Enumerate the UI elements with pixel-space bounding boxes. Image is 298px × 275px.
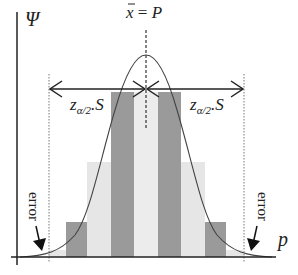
left-interval-z: z (70, 95, 77, 114)
dark-bar (111, 92, 134, 257)
left-interval-sub: α/2 (77, 104, 91, 116)
right-error-arrow (247, 226, 260, 251)
mean-label-p: P (152, 3, 162, 22)
mean-label-xbar: x (126, 3, 134, 22)
dark-bar (205, 222, 226, 257)
light-bar (49, 250, 66, 257)
right-interval-sub: α/2 (197, 104, 211, 116)
y-axis-label: Ψ (25, 8, 39, 31)
diagram-canvas (0, 0, 298, 275)
mean-label: x = P (126, 3, 162, 23)
left-interval-label: zα/2.S (70, 95, 104, 116)
light-bar (87, 162, 111, 257)
dark-bar (158, 92, 181, 257)
right-interval-rest: .S (211, 95, 224, 114)
x-axis-label: p (278, 228, 288, 251)
right-interval-label: zα/2.S (190, 95, 224, 116)
light-bar (226, 250, 243, 257)
right-error-label: error (254, 192, 271, 221)
right-interval-z: z (190, 95, 197, 114)
left-error-arrow (33, 226, 46, 251)
confidence-interval-diagram: Ψ p x = P zα/2.S zα/2.S error error (0, 0, 298, 275)
mean-label-eq: = (134, 3, 152, 22)
light-bar (181, 162, 205, 257)
dark-bar (66, 222, 87, 257)
left-error-label: error (25, 192, 42, 221)
left-interval-rest: .S (91, 95, 104, 114)
